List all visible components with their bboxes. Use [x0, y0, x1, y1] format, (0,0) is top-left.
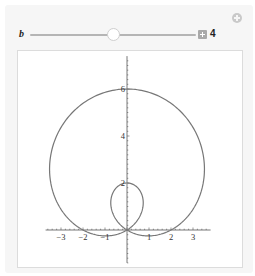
parameter-b-label: b: [19, 28, 24, 39]
parameter-b-value: 4: [210, 28, 216, 39]
svg-text:−1: −1: [100, 232, 109, 242]
svg-text:4: 4: [121, 131, 126, 141]
svg-text:2: 2: [121, 178, 125, 188]
svg-text:1: 1: [147, 232, 151, 242]
add-control-circle-plus-icon[interactable]: [232, 13, 242, 23]
plot-panel: −3−2−1123246: [17, 50, 243, 268]
svg-text:3: 3: [191, 232, 195, 242]
svg-text:2: 2: [169, 232, 173, 242]
slider-thumb[interactable]: [107, 28, 120, 41]
svg-text:−2: −2: [78, 232, 87, 242]
svg-text:6: 6: [121, 84, 125, 94]
svg-text:−3: −3: [56, 232, 65, 242]
limacon-plot: −3−2−1123246: [18, 51, 244, 269]
expand-controls-plus-box-icon[interactable]: [198, 30, 207, 39]
parameter-b-slider[interactable]: [30, 28, 196, 42]
axes: [46, 56, 211, 263]
